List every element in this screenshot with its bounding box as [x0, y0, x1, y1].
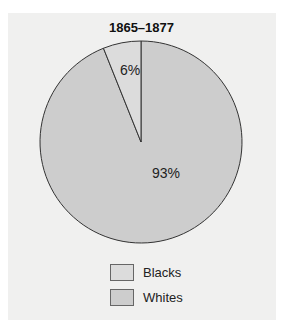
legend-label: Blacks — [143, 265, 181, 280]
legend-item-whites: Whites — [110, 287, 183, 307]
slice-label-whites: 93% — [152, 165, 180, 181]
legend-label: Whites — [143, 290, 183, 305]
legend-item-blacks: Blacks — [110, 262, 183, 282]
legend: Blacks Whites — [110, 262, 183, 312]
slice-label-blacks: 6% — [120, 62, 140, 78]
legend-swatch-whites — [110, 289, 134, 306]
legend-swatch-blacks — [110, 264, 134, 281]
